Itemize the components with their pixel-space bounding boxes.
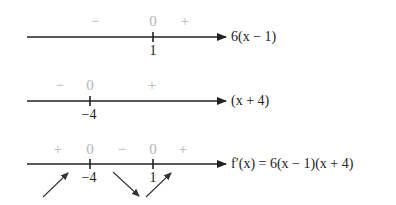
tick-label-1: 1	[150, 44, 157, 58]
number-line-derivative	[27, 159, 226, 169]
tick-label-neg4: −4	[82, 108, 97, 122]
sign-positive: +	[181, 14, 189, 29]
tick-label-neg4: −4	[82, 171, 97, 185]
sign-chart-graphics	[0, 0, 396, 205]
number-line-x-plus-4	[27, 96, 226, 106]
sign-positive: +	[54, 142, 62, 157]
sign-positive: +	[179, 142, 187, 157]
sign-positive: +	[148, 78, 156, 93]
decreasing-arrow-icon	[113, 172, 139, 196]
sign-zero: 0	[149, 14, 157, 29]
sign-zero: 0	[86, 142, 94, 157]
tick-label-1: 1	[150, 171, 157, 185]
expression-derivative: f′(x) = 6(x − 1)(x + 4)	[231, 157, 353, 171]
number-line-x-minus-1	[27, 32, 226, 42]
expression-6-x-minus-1: 6(x − 1)	[231, 30, 276, 44]
sign-negative: −	[118, 142, 126, 157]
increasing-arrow-icon	[43, 173, 68, 197]
sign-zero: 0	[86, 78, 94, 93]
sign-negative: −	[91, 14, 99, 29]
sign-zero: 0	[149, 142, 157, 157]
sign-negative: −	[56, 78, 64, 93]
expression-x-plus-4: (x + 4)	[231, 94, 269, 108]
